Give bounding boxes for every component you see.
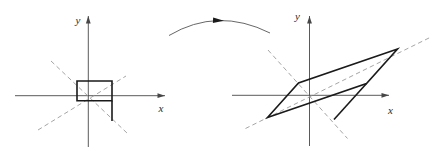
left-y-axis-arrowhead [86,16,91,24]
right-parallelogram [268,49,398,118]
right-plot: x y [232,10,431,146]
left-dashed-line-1 [51,61,127,133]
right-x-axis-label: x [387,104,393,116]
transform-arrow [169,18,270,36]
left-plot: x y [15,14,165,148]
left-rectangle [77,81,112,101]
left-y-axis-label: y [75,14,81,26]
left-x-axis-arrowhead [158,93,166,98]
left-x-axis-label: x [158,102,164,114]
figure-canvas: x y x y [0,0,436,152]
right-x-axis-arrowhead [382,93,390,98]
figure-stage: x y x y [0,0,436,152]
right-y-axis-label: y [294,10,300,22]
right-y-axis-arrowhead [307,16,312,24]
transform-arrow-arc [169,20,270,35]
